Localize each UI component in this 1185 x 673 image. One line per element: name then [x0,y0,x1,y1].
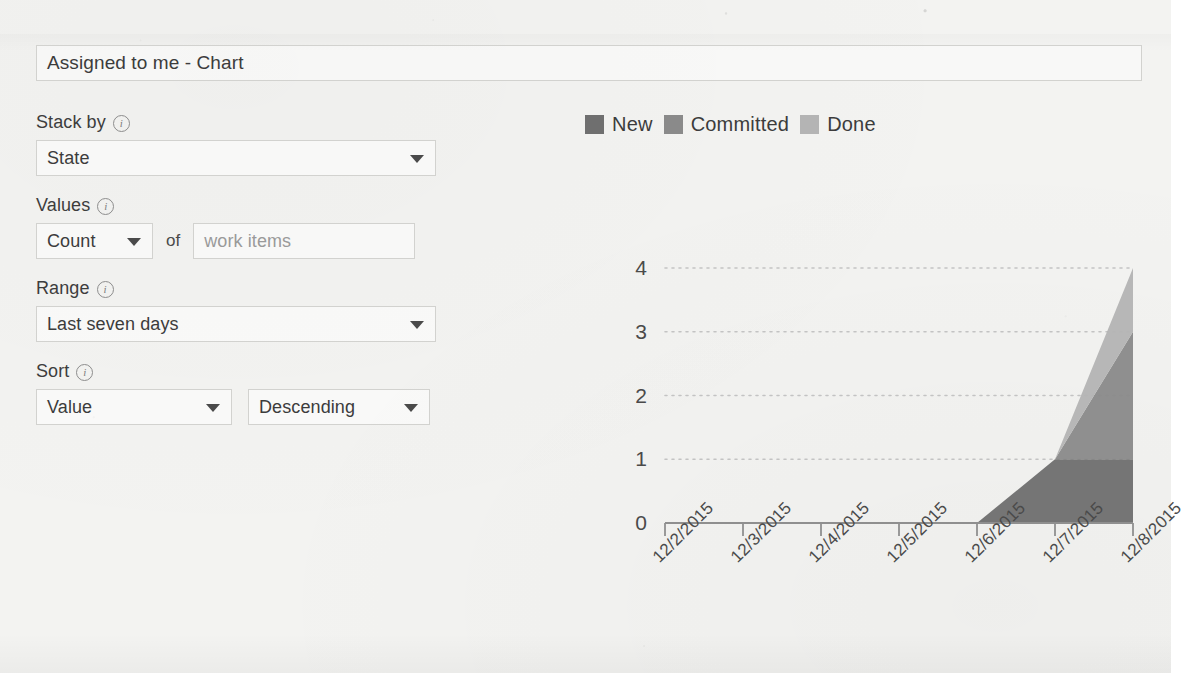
info-circle-icon[interactable] [76,364,93,381]
chart-title-value: Assigned to me - Chart [47,52,244,74]
stack-by-label-text: Stack by [36,112,106,133]
values-field-value: work items [204,231,291,252]
x-axis-label-6: 12/8/2015 [1117,498,1185,567]
chart-preview: NewCommittedDone 01234 12/2/201512/3/201… [575,105,1171,645]
info-circle-icon[interactable] [113,115,130,132]
values-label-text: Values [36,195,90,216]
range-select[interactable]: Last seven days [36,306,436,342]
values-label: Values [36,195,436,216]
sort-by-value: Value [47,397,92,418]
x-axis-label-5: 12/7/2015 [1039,498,1108,567]
range-value: Last seven days [47,314,179,335]
info-circle-icon[interactable] [97,281,114,298]
x-axis-labels: 12/2/201512/3/201512/4/201512/5/201512/6… [575,105,1171,645]
x-axis-label-4: 12/6/2015 [961,498,1030,567]
chevron-down-icon [404,404,418,412]
range-label: Range [36,278,436,299]
values-field-input[interactable]: work items [193,223,415,259]
chart-config-panel: Stack by State Values Count of work item… [36,112,436,425]
chart-title-input[interactable]: Assigned to me - Chart [36,45,1142,81]
stack-by-label: Stack by [36,112,436,133]
values-row: Count of work items [36,223,436,259]
aggregation-select[interactable]: Count [36,223,153,259]
range-label-text: Range [36,278,90,299]
sort-row: Value Descending [36,389,436,425]
chevron-down-icon [410,321,424,329]
stack-by-value: State [47,148,90,169]
sort-label: Sort [36,361,436,382]
info-circle-icon[interactable] [97,198,114,215]
x-axis-label-2: 12/4/2015 [805,498,874,567]
x-axis-label-1: 12/3/2015 [727,498,796,567]
aggregation-value: Count [47,231,96,252]
sort-by-select[interactable]: Value [36,389,232,425]
sort-direction-value: Descending [259,397,355,418]
stack-by-select[interactable]: State [36,140,436,176]
x-axis-label-0: 12/2/2015 [649,498,718,567]
chevron-down-icon [127,238,141,246]
x-axis-label-3: 12/5/2015 [883,498,952,567]
sort-label-text: Sort [36,361,69,382]
chevron-down-icon [206,404,220,412]
sort-direction-select[interactable]: Descending [248,389,430,425]
chevron-down-icon [410,155,424,163]
of-label: of [166,231,180,251]
